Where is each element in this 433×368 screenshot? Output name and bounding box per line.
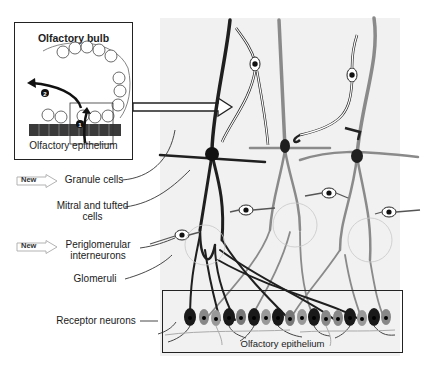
new-badge-periglomerular: New bbox=[16, 240, 60, 254]
label-granule-cells: Granule cells bbox=[64, 174, 124, 186]
granule-cells bbox=[222, 28, 360, 145]
new-badge-granule: New bbox=[16, 174, 60, 188]
label-mitral-tufted-line2: cells bbox=[55, 211, 130, 223]
periglomerular-cells bbox=[150, 188, 420, 244]
label-glomeruli: Glomeruli bbox=[70, 273, 120, 285]
new-badge-text: New bbox=[21, 175, 36, 184]
inset-caption: Olfactory epithelium bbox=[15, 140, 132, 151]
gray-mitral-cells bbox=[205, 18, 418, 320]
olfactory-epithelium-label: Olfactory epithelium bbox=[163, 338, 402, 349]
epithelium-strip bbox=[29, 124, 121, 136]
label-receptor-neurons: Receptor neurons bbox=[52, 315, 140, 327]
olfactory-bulb-inset: Olfactory bulb 2 1 Olfactory epithelium bbox=[14, 22, 133, 160]
olfactory-epithelium-box: Olfactory epithelium bbox=[162, 290, 403, 353]
new-badge-text: New bbox=[21, 241, 36, 250]
label-periglomerular-line2: interneurons bbox=[58, 250, 138, 262]
